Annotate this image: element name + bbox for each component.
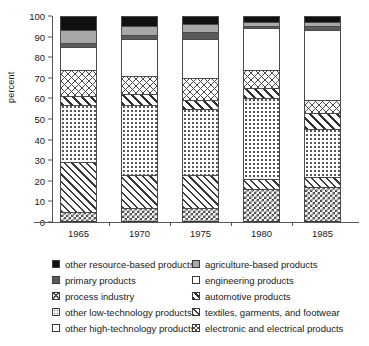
bar-segment <box>60 162 97 211</box>
segment-divider <box>243 88 280 89</box>
y-tick-label: 90 <box>17 32 45 41</box>
bar-segment <box>121 16 158 26</box>
bar-segment <box>243 70 280 89</box>
y-axis-label: percent <box>6 72 16 103</box>
y-tick-label: 80 <box>17 53 45 62</box>
legend-swatch-icon <box>52 308 60 316</box>
segment-divider <box>243 179 280 180</box>
bar-segment <box>182 78 219 101</box>
bar-segment <box>60 47 97 70</box>
legend-label: automotive products <box>205 291 291 302</box>
segment-divider <box>121 175 158 176</box>
segment-divider <box>60 47 97 48</box>
segment-divider <box>243 26 280 27</box>
segment-divider <box>182 208 219 209</box>
segment-divider <box>121 39 158 40</box>
legend-swatch-icon <box>192 260 200 268</box>
segment-divider <box>121 94 158 95</box>
bar-segment <box>304 100 341 112</box>
segment-divider <box>60 212 97 213</box>
legend-item[interactable]: engineering products <box>192 275 352 286</box>
segment-divider <box>60 70 97 71</box>
bar-segment <box>243 88 280 98</box>
segment-divider <box>121 105 158 106</box>
bar-segment <box>243 189 280 222</box>
segment-divider <box>60 96 97 97</box>
x-tick-mark <box>109 222 110 226</box>
bar-1980 <box>243 16 280 222</box>
y-tick-label: 10 <box>17 197 45 206</box>
legend-item[interactable]: primary products <box>52 275 192 286</box>
segment-divider <box>304 187 341 188</box>
bar-segment <box>182 208 219 222</box>
y-tick-label: 70 <box>17 73 45 82</box>
legend-swatch-icon <box>52 324 60 332</box>
legend-item[interactable]: textiles, garments, and footwear <box>192 307 352 318</box>
bar-segment <box>121 105 158 175</box>
bar-segment <box>182 24 219 32</box>
chart-figure: percent 0102030405060708090100 196519701… <box>0 0 369 346</box>
legend-item[interactable]: automotive products <box>192 291 352 302</box>
bar-segment <box>60 70 97 97</box>
bar-1985 <box>304 16 341 222</box>
legend-swatch-icon <box>52 260 60 268</box>
bar-segment <box>243 179 280 189</box>
y-tick-label: 60 <box>17 94 45 103</box>
x-tick-mark <box>292 222 293 226</box>
y-axis-ticks: 0102030405060708090100 <box>18 16 52 222</box>
segment-divider <box>182 175 219 176</box>
segment-divider <box>121 16 158 17</box>
bar-segment <box>121 76 158 95</box>
y-tick-label: 30 <box>17 156 45 165</box>
bar-segment <box>182 100 219 108</box>
chart-legend: other resource-based productsagriculture… <box>52 256 352 336</box>
legend-label: electronic and electrical products <box>205 323 343 334</box>
legend-item[interactable]: other high-technology products <box>52 323 192 334</box>
bar-segment <box>243 98 280 178</box>
segment-divider <box>121 208 158 209</box>
segment-divider <box>182 109 219 110</box>
segment-divider <box>60 162 97 163</box>
legend-item[interactable]: process industry <box>52 291 192 302</box>
legend-swatch-icon <box>192 324 200 332</box>
segment-divider <box>243 16 280 17</box>
x-tick-mark <box>231 222 232 226</box>
segment-divider <box>182 32 219 33</box>
legend-label: process industry <box>65 291 134 302</box>
legend-label: engineering products <box>205 275 294 286</box>
x-tick-mark <box>170 222 171 226</box>
bar-segment <box>182 39 219 78</box>
segment-divider <box>60 43 97 44</box>
bar-1965 <box>60 16 97 222</box>
segment-divider <box>182 39 219 40</box>
legend-label: primary products <box>65 275 136 286</box>
legend-item[interactable]: electronic and electrical products <box>192 323 352 334</box>
y-tick-label: 40 <box>17 135 45 144</box>
bar-segment <box>304 129 341 176</box>
segment-divider <box>304 129 341 130</box>
bar-segment <box>304 30 341 100</box>
legend-item[interactable]: other resource-based products <box>52 259 192 270</box>
segment-divider <box>182 100 219 101</box>
legend-label: agriculture-based products <box>205 259 317 270</box>
segment-divider <box>243 98 280 99</box>
legend-item[interactable]: other low-technology products <box>52 307 192 318</box>
x-tick-label: 1985 <box>293 228 353 239</box>
y-tick-label: 50 <box>17 115 45 124</box>
legend-item[interactable]: agriculture-based products <box>192 259 352 270</box>
bar-1975 <box>182 16 219 222</box>
segment-divider <box>243 28 280 29</box>
legend-swatch-icon <box>52 276 60 284</box>
x-axis-line <box>34 222 359 223</box>
segment-divider <box>304 22 341 23</box>
segment-divider <box>60 105 97 106</box>
bar-segment <box>60 105 97 163</box>
segment-divider <box>121 76 158 77</box>
segment-divider <box>304 113 341 114</box>
segment-divider <box>182 16 219 17</box>
segment-divider <box>182 78 219 79</box>
bar-segment <box>60 212 97 222</box>
bar-segment <box>304 187 341 222</box>
bar-segment <box>121 26 158 34</box>
bar-segment <box>60 30 97 42</box>
